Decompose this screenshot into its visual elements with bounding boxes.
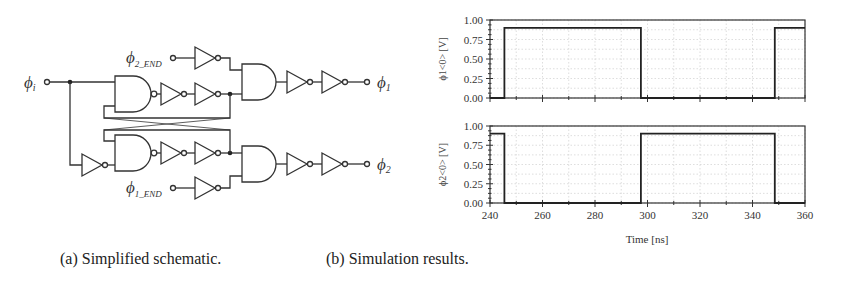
y-tick-label: 0.75: [464, 139, 484, 151]
phi-2-terminal: [365, 162, 370, 167]
caption-panel-b: (b) Simulation results.: [326, 250, 469, 268]
y-tick-label: 0.75: [464, 34, 484, 46]
x-tick-label: 360: [797, 209, 814, 221]
plot-phi1: 0.000.250.500.751.00ϕ1<0> [V]: [437, 14, 805, 104]
plot-phi2: 0.000.250.500.751.0024026028030032034036…: [437, 120, 814, 221]
phi-1-label: ϕ1: [377, 73, 391, 93]
phi-1-end-label: ϕ1_END: [126, 178, 162, 199]
x-tick-label: 260: [534, 209, 551, 221]
x-tick-label: 300: [639, 209, 656, 221]
inverter-icon: [195, 47, 221, 69]
inverter-icon: [195, 83, 221, 105]
inverter-icon: [195, 177, 221, 199]
phi-i-label: ϕi: [24, 73, 36, 93]
y-tick-label: 1.00: [464, 14, 484, 26]
phi-2-end-label: ϕ2_END: [126, 48, 162, 69]
caption-panel-a: (a) Simplified schematic.: [60, 250, 221, 268]
y-tick-label: 0.50: [464, 53, 484, 65]
y-tick-label: 0.00: [464, 92, 484, 104]
x-tick-label: 340: [744, 209, 761, 221]
y-tick-label: 0.00: [464, 197, 484, 209]
y-tick-label: 0.25: [464, 73, 484, 85]
phi-2-end-terminal: [171, 56, 176, 61]
phi-2-label: ϕ2: [377, 155, 391, 175]
x-axis-label: Time [ns]: [626, 233, 669, 245]
and-gate-icon: [242, 64, 276, 100]
inverter-icon: [287, 71, 313, 93]
x-tick-label: 280: [587, 209, 604, 221]
phi-1-end-terminal: [171, 186, 176, 191]
inverter-icon: [322, 71, 348, 93]
y-tick-label: 0.25: [464, 178, 484, 190]
phi-i-terminal: [45, 80, 50, 85]
y-tick-label: 1.00: [464, 120, 484, 132]
nand-gate-icon: [115, 76, 157, 112]
simulation-plots: 0.000.250.500.751.00ϕ1<0> [V] 0.000.250.…: [420, 0, 843, 260]
schematic-diagram: ϕi ϕ2_END ϕ1_END ϕ1 ϕ2: [0, 0, 420, 240]
y-axis-label: ϕ2<0> [V]: [437, 143, 448, 186]
inverter-icon: [287, 153, 313, 175]
phi-1-terminal: [365, 80, 370, 85]
inverter-icon: [195, 142, 221, 164]
x-tick-label: 240: [482, 209, 499, 221]
inverter-icon: [82, 154, 108, 176]
inverter-icon: [161, 142, 187, 164]
nand-gate-icon: [115, 135, 157, 171]
and-gate-icon: [242, 146, 276, 182]
x-tick-label: 320: [692, 209, 709, 221]
inverter-icon: [322, 153, 348, 175]
y-tick-label: 0.50: [464, 159, 484, 171]
y-axis-label: ϕ1<0> [V]: [437, 38, 448, 81]
inverter-icon: [161, 83, 187, 105]
